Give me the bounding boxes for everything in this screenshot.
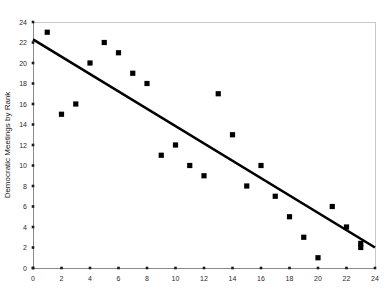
x-tick-mark	[345, 267, 348, 270]
data-point	[116, 50, 121, 55]
x-tick-label: 18	[286, 275, 294, 282]
data-point	[287, 214, 292, 219]
data-point	[144, 81, 149, 86]
x-tick-mark	[117, 267, 120, 270]
x-tick-mark	[374, 267, 377, 270]
x-tick-label: 6	[117, 275, 121, 282]
trend-line-group	[33, 39, 375, 247]
data-point	[216, 91, 221, 96]
data-point	[315, 255, 320, 260]
trend-line	[33, 39, 375, 247]
data-point	[45, 30, 50, 35]
x-tick-mark	[231, 267, 234, 270]
data-point	[130, 71, 135, 76]
x-tick-label: 14	[229, 275, 237, 282]
data-point	[87, 60, 92, 65]
x-tick-label: 8	[145, 275, 149, 282]
x-axis-ticks: 024681012141618202224	[31, 267, 379, 282]
y-axis-title: Democratic Meetings by Rank	[3, 91, 12, 199]
x-tick-label: 24	[371, 275, 379, 282]
x-tick-label: 10	[172, 275, 180, 282]
x-tick-label: 20	[314, 275, 322, 282]
data-point	[258, 163, 263, 168]
plot-frame	[33, 22, 375, 268]
y-tick-label: 22	[19, 39, 27, 46]
x-tick-label: 22	[343, 275, 351, 282]
y-tick-mark	[32, 41, 35, 44]
data-point	[301, 235, 306, 240]
y-tick-label: 12	[19, 142, 27, 149]
data-point	[230, 132, 235, 137]
data-point	[344, 224, 349, 229]
y-tick-label: 24	[19, 19, 27, 26]
data-point	[201, 173, 206, 178]
y-tick-mark	[32, 185, 35, 188]
y-tick-label: 4	[23, 224, 27, 231]
y-tick-mark	[32, 205, 35, 208]
x-tick-mark	[288, 267, 291, 270]
x-tick-mark	[203, 267, 206, 270]
y-tick-label: 20	[19, 60, 27, 67]
data-point	[173, 142, 178, 147]
y-tick-label: 18	[19, 80, 27, 87]
y-tick-label: 2	[23, 244, 27, 251]
data-point	[73, 101, 78, 106]
y-tick-mark	[32, 144, 35, 147]
y-tick-label: 16	[19, 101, 27, 108]
data-point	[59, 112, 64, 117]
y-tick-mark	[32, 103, 35, 106]
data-point	[102, 40, 107, 45]
data-point	[358, 241, 363, 246]
y-axis-ticks: 024681012141618202224	[19, 19, 34, 272]
x-tick-label: 12	[200, 275, 208, 282]
y-tick-label: 6	[23, 203, 27, 210]
y-tick-mark	[32, 62, 35, 65]
y-tick-mark	[32, 246, 35, 249]
data-point	[187, 163, 192, 168]
y-tick-mark	[32, 82, 35, 85]
y-tick-label: 14	[19, 121, 27, 128]
y-tick-label: 0	[23, 265, 27, 272]
y-tick-mark	[32, 226, 35, 229]
data-point	[244, 183, 249, 188]
x-tick-mark	[317, 267, 320, 270]
data-point	[159, 153, 164, 158]
data-points-group	[45, 30, 364, 261]
axes	[33, 22, 375, 268]
x-tick-mark	[174, 267, 177, 270]
x-tick-label: 2	[60, 275, 64, 282]
data-point	[273, 194, 278, 199]
x-tick-label: 0	[31, 275, 35, 282]
x-tick-mark	[89, 267, 92, 270]
x-tick-mark	[260, 267, 263, 270]
y-tick-mark	[32, 267, 35, 270]
x-tick-mark	[60, 267, 63, 270]
y-tick-mark	[32, 123, 35, 126]
data-point	[330, 204, 335, 209]
y-tick-label: 8	[23, 183, 27, 190]
chart-canvas: 024681012141618202224 024681012141618202…	[0, 0, 386, 300]
x-tick-label: 4	[88, 275, 92, 282]
x-tick-mark	[146, 267, 149, 270]
x-tick-label: 16	[257, 275, 265, 282]
y-tick-mark	[32, 21, 35, 24]
y-tick-mark	[32, 164, 35, 167]
scatter-chart: 024681012141618202224 024681012141618202…	[0, 0, 386, 300]
y-tick-label: 10	[19, 162, 27, 169]
